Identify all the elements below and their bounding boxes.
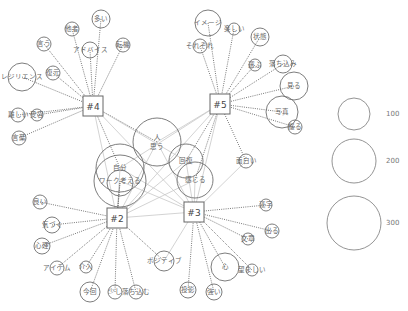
word-label: 受容 bbox=[30, 110, 44, 119]
word-node[interactable]: 心 bbox=[211, 253, 239, 281]
word-label: 文章 bbox=[241, 234, 255, 243]
hub-node-4[interactable]: #4 bbox=[83, 96, 103, 116]
word-node[interactable]: 気づく bbox=[42, 217, 63, 233]
word-label: 出る bbox=[265, 226, 279, 235]
co-occurrence-network-diagram: 言う他者多いアドバイス転機レジリエンス復元難しい受容言葉イメージ楽しいそれぞれ状… bbox=[0, 0, 408, 311]
word-node[interactable]: ポジティブ bbox=[147, 251, 182, 271]
word-label: 転機 bbox=[116, 40, 130, 49]
word-node[interactable]: 復元 bbox=[46, 66, 60, 80]
word-label: 気づく bbox=[42, 220, 63, 229]
hub-label: #3 bbox=[187, 208, 200, 218]
word-label: 望ましい bbox=[238, 265, 266, 274]
word-label: 面白い bbox=[236, 156, 257, 165]
word-label: それぞれ bbox=[186, 42, 214, 50]
word-label: 他者 bbox=[65, 24, 79, 33]
word-node[interactable]: 多い bbox=[92, 10, 110, 28]
word-label: アイテム bbox=[43, 264, 71, 272]
word-label: イメージ bbox=[194, 19, 222, 27]
word-label: 楽しい bbox=[224, 24, 245, 33]
word-label: 選ぶ bbox=[248, 60, 262, 69]
word-node[interactable]: 良い bbox=[33, 195, 47, 209]
word-label: 状態 bbox=[253, 32, 267, 41]
word-node[interactable]: 強い bbox=[206, 284, 222, 300]
legend-label: 300 bbox=[386, 219, 399, 227]
word-label: 思う bbox=[150, 143, 164, 151]
word-node[interactable]: 選ぶ bbox=[248, 59, 262, 71]
hub-node-5[interactable]: #5 bbox=[210, 94, 230, 114]
word-edge bbox=[194, 212, 272, 231]
word-node[interactable]: 言う bbox=[37, 37, 51, 51]
word-node[interactable]: 心理 bbox=[34, 238, 50, 254]
word-label: 介入 bbox=[79, 263, 93, 271]
word-label: 多い bbox=[94, 14, 108, 23]
word-node[interactable]: 他者 bbox=[65, 22, 79, 36]
hub-edge bbox=[117, 212, 194, 218]
word-circle bbox=[107, 170, 133, 196]
word-label: 漢字 bbox=[259, 200, 273, 209]
hub-node-2[interactable]: #2 bbox=[107, 208, 127, 228]
word-node[interactable]: 落ち込む bbox=[122, 285, 150, 299]
word-edge bbox=[194, 212, 214, 292]
word-node[interactable]: 撮る bbox=[288, 120, 302, 134]
word-label: 撮る bbox=[288, 122, 302, 131]
word-edge bbox=[90, 218, 117, 292]
word-node[interactable]: 面白い bbox=[236, 154, 257, 168]
word-edge bbox=[117, 218, 136, 292]
word-node[interactable]: 少し bbox=[108, 285, 122, 299]
word-edge bbox=[194, 205, 266, 212]
word-edge bbox=[188, 212, 194, 290]
hub-label: #2 bbox=[110, 214, 123, 224]
word-node[interactable]: 受容 bbox=[30, 109, 44, 121]
legend-label: 100 bbox=[386, 110, 399, 118]
word-label: 落ち込む bbox=[122, 287, 150, 296]
word-node[interactable]: 感じる bbox=[177, 162, 213, 198]
hub-node-3[interactable]: #3 bbox=[184, 202, 204, 222]
word-label: ポジティブ bbox=[147, 256, 182, 265]
word-edge bbox=[40, 202, 117, 218]
legend-item: 300 bbox=[327, 196, 399, 250]
word-label: 良い bbox=[33, 197, 47, 206]
word-node[interactable]: レジリエンス bbox=[1, 63, 43, 91]
word-node[interactable]: 転機 bbox=[116, 38, 130, 52]
word-label: 言う bbox=[37, 39, 51, 48]
word-label: 今回 bbox=[83, 287, 97, 296]
word-node[interactable] bbox=[107, 170, 133, 196]
word-label: アドバイス bbox=[73, 46, 108, 54]
word-label: 言葉 bbox=[12, 133, 26, 142]
word-node[interactable]: 今回 bbox=[80, 282, 100, 302]
word-node[interactable]: アイテム bbox=[43, 261, 71, 275]
word-node[interactable]: イメージ bbox=[194, 10, 222, 36]
word-node[interactable]: 介入 bbox=[79, 261, 93, 273]
legend-circle bbox=[338, 98, 370, 130]
word-label: 落ち込み bbox=[269, 59, 297, 68]
word-nodes: 言う他者多いアドバイス転機レジリエンス復元難しい受容言葉イメージ楽しいそれぞれ状… bbox=[1, 10, 308, 302]
word-label: 見る bbox=[287, 82, 301, 90]
word-label: 強い bbox=[207, 288, 221, 296]
legend-circle bbox=[332, 139, 376, 183]
word-edge bbox=[115, 218, 117, 292]
hub-label: #5 bbox=[213, 100, 226, 110]
word-label: 少し bbox=[108, 288, 122, 296]
word-node[interactable]: 楽しい bbox=[224, 23, 245, 35]
word-label: 投影 bbox=[181, 285, 195, 294]
word-label: 復元 bbox=[46, 68, 60, 77]
hub-label: #4 bbox=[86, 102, 100, 112]
size-legend: 100200300 bbox=[327, 98, 399, 250]
word-node[interactable]: 状態 bbox=[251, 28, 269, 46]
word-label: 人 bbox=[154, 134, 161, 142]
word-label: レジリエンス bbox=[1, 73, 43, 81]
word-node[interactable]: 漢字 bbox=[259, 199, 273, 211]
word-label: 心理 bbox=[35, 242, 49, 250]
word-node[interactable]: 望ましい bbox=[238, 264, 266, 276]
word-node[interactable]: それぞれ bbox=[186, 39, 214, 53]
word-node[interactable]: アドバイス bbox=[73, 42, 108, 58]
legend-item: 100 bbox=[338, 98, 399, 130]
word-node[interactable]: 難しい bbox=[8, 108, 29, 122]
word-label: 心 bbox=[222, 263, 229, 271]
legend-circle bbox=[327, 196, 381, 250]
word-label: 写真 bbox=[275, 107, 289, 116]
word-node[interactable]: 出る bbox=[265, 224, 279, 238]
word-node[interactable]: 文章 bbox=[241, 233, 255, 245]
word-node[interactable]: 投影 bbox=[180, 282, 196, 298]
word-node[interactable]: 言葉 bbox=[12, 131, 26, 145]
